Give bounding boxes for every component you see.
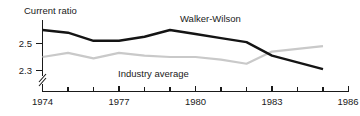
series-annotation-walker-wilson: Walker-Wilson xyxy=(180,13,241,24)
y-tick-label-2-5: 2.5 xyxy=(19,38,32,49)
y-axis-title: Current ratio xyxy=(24,5,77,16)
x-tick-label-1986: 1986 xyxy=(337,96,358,107)
x-axis-group: 1974 1977 1980 1983 1986 xyxy=(32,86,359,108)
x-tick-marks xyxy=(43,86,349,92)
x-tick-label-1977: 1977 xyxy=(108,96,129,107)
x-tick-label-1980: 1980 xyxy=(185,96,206,107)
series-line-industry-average xyxy=(43,46,324,64)
x-tick-label-1974: 1974 xyxy=(32,96,53,107)
y-tick-group: 2.5 2.3 xyxy=(19,38,43,76)
chart-canvas: 2.5 2.3 Current ratio 1974 1 xyxy=(0,0,360,116)
series-annotation-industry-average: Industry average xyxy=(118,68,189,79)
x-tick-label-1983: 1983 xyxy=(261,96,282,107)
current-ratio-line-chart: 2.5 2.3 Current ratio 1974 1 xyxy=(0,0,360,116)
y-tick-label-2-3: 2.3 xyxy=(19,65,32,76)
